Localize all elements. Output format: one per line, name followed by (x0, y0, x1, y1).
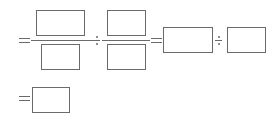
equals-sign-3 (19, 96, 30, 101)
equals-sign-2 (151, 38, 162, 43)
result-right-blank[interactable] (227, 27, 266, 53)
final-answer-blank[interactable] (32, 87, 70, 113)
fraction-1-bar (31, 40, 96, 41)
fraction-2-bar (102, 40, 150, 41)
result-left-blank[interactable] (163, 27, 213, 53)
equals-sign-1 (19, 38, 30, 43)
fraction-1-denominator-blank[interactable] (41, 44, 80, 70)
divide-sign-1 (93, 36, 100, 45)
divide-sign-2 (215, 36, 222, 45)
fraction-1-numerator-blank[interactable] (36, 10, 85, 36)
fraction-2-denominator-blank[interactable] (107, 44, 146, 70)
fraction-2-numerator-blank[interactable] (107, 10, 146, 36)
